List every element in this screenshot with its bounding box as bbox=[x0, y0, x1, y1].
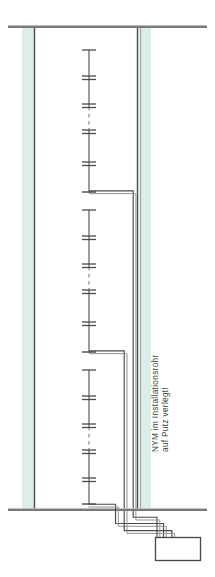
cable-branch-lower-run-inner bbox=[127, 511, 175, 538]
cable-branch-lower-run bbox=[124, 511, 172, 538]
left-wall-fill bbox=[22, 28, 34, 511]
branch-lower-conduit-inner bbox=[89, 354, 127, 511]
floor-group bbox=[8, 509, 207, 510]
cable-branch-upper-run bbox=[133, 511, 157, 538]
branch-upper-conduit-inner bbox=[89, 194, 136, 511]
drawing-svg bbox=[0, 0, 215, 577]
riser-group bbox=[82, 50, 96, 504]
ceiling-group bbox=[8, 26, 207, 27]
branch-lower-group bbox=[89, 351, 127, 511]
cable-branch-upper-run-inner bbox=[136, 511, 160, 538]
wall-fills bbox=[22, 28, 151, 511]
junction-box bbox=[156, 538, 201, 561]
electrical-section-drawing: NYM im Installationsrohr auf Putz verleg… bbox=[0, 0, 215, 577]
junction-box-group bbox=[156, 538, 201, 561]
branch-lower-conduit-outer bbox=[89, 351, 124, 511]
